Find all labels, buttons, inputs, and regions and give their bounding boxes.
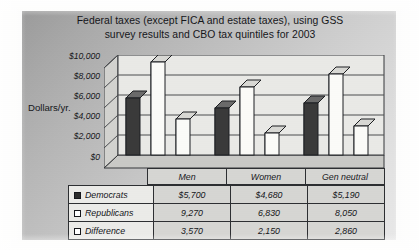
cell-republicans-genneutral: 8,050 [308, 204, 385, 222]
y-tick-0: $0 [42, 152, 100, 162]
cell-democrats-women: $4,680 [231, 186, 308, 204]
table-row: Republicans 9,270 6,830 8,050 [69, 204, 385, 222]
cell-difference-women: 2,150 [231, 222, 308, 240]
data-table: Democrats $5,700 $4,680 $5,190 Republica… [68, 185, 385, 240]
cell-republicans-women: 6,830 [231, 204, 308, 222]
legend-label-difference: Difference [85, 226, 125, 236]
category-axis-row: Men Women Gen neutral [147, 168, 385, 185]
table-row: Difference 3,570 2,150 2,860 [69, 222, 385, 240]
y-tick-2000: $2,000 [42, 131, 100, 141]
plot-3d-frame [104, 55, 385, 169]
cell-democrats-men: $5,700 [154, 186, 231, 204]
plot-area [104, 55, 385, 168]
cell-democrats-genneutral: $5,190 [308, 186, 385, 204]
y-tick-10000: $10,000 [42, 51, 100, 61]
category-label-genneutral: Gen neutral [306, 169, 384, 184]
table-row: Democrats $5,700 $4,680 $5,190 [69, 186, 385, 204]
legend-row-difference: Difference [69, 222, 154, 240]
category-label-women: Women [227, 169, 306, 184]
legend-row-democrats: Democrats [69, 186, 154, 204]
cell-republicans-men: 9,270 [154, 204, 231, 222]
legend-swatch-difference-icon [74, 228, 81, 235]
category-label-men: Men [148, 169, 227, 184]
legend-swatch-republicans-icon [74, 210, 81, 217]
cell-difference-genneutral: 2,860 [308, 222, 385, 240]
legend-label-democrats: Democrats [85, 190, 128, 200]
legend-row-republicans: Republicans [69, 204, 154, 222]
y-tick-8000: $8,000 [42, 71, 100, 81]
legend-swatch-democrats-icon [74, 192, 81, 199]
y-tick-6000: $6,000 [42, 91, 100, 101]
y-tick-4000: $4,000 [42, 111, 100, 121]
scanned-page: Federal taxes (except FICA and estate ta… [0, 0, 419, 250]
cell-difference-men: 3,570 [154, 222, 231, 240]
legend-label-republicans: Republicans [85, 208, 133, 218]
